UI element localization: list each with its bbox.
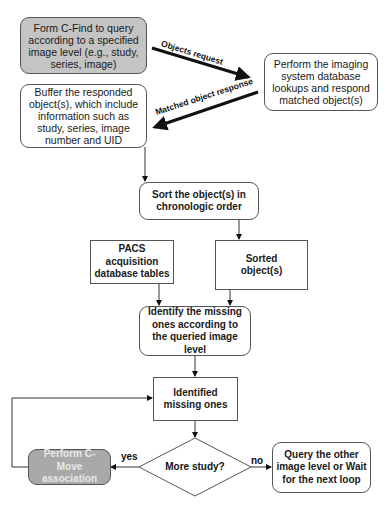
identify-node: Identify the missing ones according to t… (139, 306, 251, 356)
query-other-node: Query the other image level or Wait for … (272, 442, 371, 493)
buffer-node: Buffer the responded object(s), which in… (20, 84, 147, 148)
no-label: no (251, 455, 263, 466)
decision-label: More study? (155, 461, 235, 472)
identified-node: Identified missing ones (153, 377, 238, 421)
form-cfind-node: Form C-Find to query according to a spec… (20, 17, 147, 74)
perform-lookup-node: Perform the imaging system database look… (264, 53, 378, 111)
pacs-tables-node: PACS acquisition database tables (90, 240, 174, 284)
sorted-objects-node: Sorted object(s) (215, 240, 308, 290)
cmove-node: Perform C-Move association (28, 449, 111, 485)
sort-node: Sort the object(s) in chronologic order (139, 182, 259, 220)
yes-label: yes (121, 451, 138, 462)
